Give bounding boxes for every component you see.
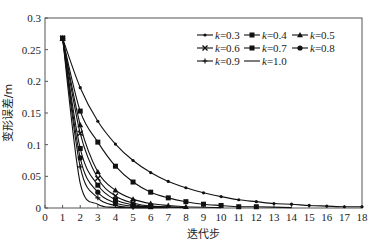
dot-marker xyxy=(96,120,99,123)
y-axis: 00.050.10.150.20.250.3 xyxy=(22,12,48,214)
square-marker xyxy=(250,33,255,38)
y-tick-label: 0 xyxy=(36,202,42,214)
square-marker xyxy=(95,140,100,145)
x-tick-label: 15 xyxy=(304,211,316,223)
legend-label: k=0.6 xyxy=(215,42,240,54)
legend-item: k=0.4 xyxy=(244,29,287,41)
x-tick-label: 18 xyxy=(357,211,369,223)
series-k-0_4 xyxy=(60,36,291,209)
series-k-0_7 xyxy=(60,36,186,209)
square-marker xyxy=(131,180,136,185)
y-tick-label: 0.1 xyxy=(27,139,41,151)
x-tick-label: 10 xyxy=(216,211,228,223)
legend-item: k=0.9 xyxy=(197,55,240,67)
square-marker xyxy=(95,183,100,188)
legend-item: k=0.7 xyxy=(244,42,287,54)
square-marker xyxy=(201,202,206,207)
legend-label: k=0.3 xyxy=(215,29,240,41)
dot-marker xyxy=(114,142,117,145)
x-tick-label: 9 xyxy=(201,211,207,223)
legend-label: k=0.4 xyxy=(262,29,287,41)
series-k-0_8 xyxy=(60,36,168,209)
circle-marker xyxy=(297,45,302,50)
x-tick-label: 8 xyxy=(183,211,189,223)
dot-marker xyxy=(184,186,187,189)
x-tick-label: 14 xyxy=(286,211,298,223)
x-tick-label: 16 xyxy=(321,211,333,223)
x-tick-label: 12 xyxy=(251,211,262,223)
x-tick-label: 1 xyxy=(60,211,66,223)
y-tick-label: 0.05 xyxy=(22,170,42,182)
square-marker xyxy=(166,195,171,200)
plus-marker xyxy=(203,59,208,64)
dot-marker xyxy=(360,205,363,208)
square-marker xyxy=(78,109,83,114)
y-tick-label: 0.2 xyxy=(27,75,41,87)
dot-marker xyxy=(272,202,275,205)
series-line xyxy=(63,38,362,207)
dot-marker xyxy=(343,205,346,208)
dot-marker xyxy=(202,191,205,194)
dot-marker xyxy=(290,203,293,206)
dot-marker xyxy=(255,200,258,203)
square-marker xyxy=(254,204,259,209)
x-axis-title: 迭代步 xyxy=(187,228,220,241)
dot-marker xyxy=(308,204,311,207)
deformation-error-chart: 00.050.10.150.20.250.3 01234567891011121… xyxy=(0,0,378,243)
series-line xyxy=(63,38,292,207)
y-tick-label: 0.25 xyxy=(22,44,42,56)
legend-item: k=0.3 xyxy=(197,29,240,41)
square-marker xyxy=(113,164,118,169)
circle-marker xyxy=(95,190,100,195)
legend: k=0.3k=0.4k=0.5k=0.6k=0.7k=0.8k=0.9k=1.0 xyxy=(197,29,335,67)
dot-marker xyxy=(149,171,152,174)
square-marker xyxy=(236,204,241,209)
series-k-0_9 xyxy=(60,36,168,210)
x-tick-label: 7 xyxy=(166,211,172,223)
dot-marker xyxy=(220,195,223,198)
legend-label: k=1.0 xyxy=(262,55,287,67)
x-tick-label: 4 xyxy=(113,211,119,223)
square-marker xyxy=(250,46,255,51)
y-tick-label: 0.15 xyxy=(22,107,42,119)
legend-label: k=0.9 xyxy=(215,55,240,67)
x-tick-label: 13 xyxy=(268,211,280,223)
dot-marker xyxy=(237,198,240,201)
legend-label: k=0.7 xyxy=(262,42,287,54)
dot-marker xyxy=(203,33,206,36)
y-tick-label: 0.3 xyxy=(27,12,41,24)
series-line xyxy=(63,38,222,207)
legend-label: k=0.8 xyxy=(310,42,335,54)
legend-item: k=1.0 xyxy=(244,55,287,67)
legend-label: k=0.5 xyxy=(310,29,335,41)
legend-item: k=0.5 xyxy=(292,29,335,41)
dot-marker xyxy=(131,159,134,162)
x-tick-label: 3 xyxy=(95,211,101,223)
x-tick-label: 17 xyxy=(339,211,351,223)
x-tick-label: 11 xyxy=(233,211,244,223)
y-axis-title: 变形误差/m xyxy=(1,84,15,142)
x-tick-label: 0 xyxy=(42,211,48,223)
dot-marker xyxy=(167,180,170,183)
square-marker xyxy=(148,190,153,195)
legend-item: k=0.8 xyxy=(292,42,335,54)
x-tick-label: 5 xyxy=(130,211,136,223)
dot-marker xyxy=(325,205,328,208)
x-tick-label: 6 xyxy=(148,211,154,223)
series-line xyxy=(63,38,169,207)
legend-item: k=0.6 xyxy=(197,42,240,54)
cross-marker xyxy=(95,176,100,181)
x-tick-label: 2 xyxy=(77,211,83,223)
square-marker xyxy=(183,199,188,204)
series-k-0_5 xyxy=(60,35,222,209)
dot-marker xyxy=(79,86,82,89)
